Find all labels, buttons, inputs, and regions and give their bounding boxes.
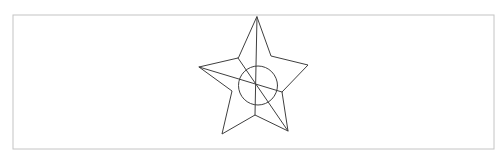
drawing-canvas xyxy=(0,0,497,155)
star-outline xyxy=(199,17,308,134)
canvas-border xyxy=(13,15,494,149)
diagonal-left-point-line xyxy=(199,67,282,92)
center-circle xyxy=(239,66,278,105)
star-sketch-svg xyxy=(0,0,497,155)
sketch-layer xyxy=(13,15,494,149)
